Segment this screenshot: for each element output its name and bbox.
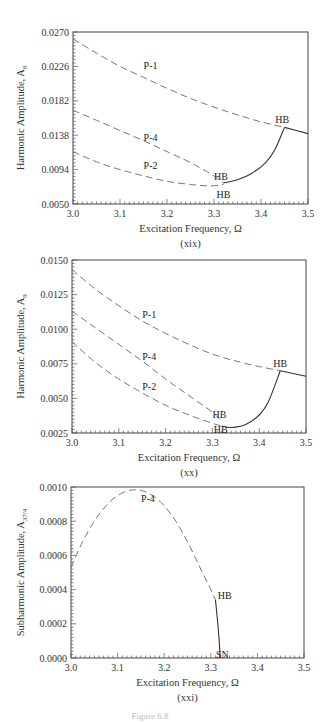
x-tick-label: 3.0 xyxy=(65,662,78,673)
subfigure-caption: (xix) xyxy=(180,238,201,250)
y-tick-label: 0.0025 xyxy=(41,428,69,439)
curve-annotation: HB xyxy=(212,409,226,420)
curve-annotation: P-4 xyxy=(141,493,155,504)
subfigure-caption: (xxi) xyxy=(177,692,198,704)
curve-annotation: P-2 xyxy=(144,160,158,171)
series-line-stable-branch xyxy=(223,127,284,182)
y-tick-label: 0.0000 xyxy=(40,653,68,664)
curve-annotation: P-2 xyxy=(142,381,156,392)
curve-annotation: P-1 xyxy=(144,60,158,71)
x-tick-label: 3.4 xyxy=(251,662,264,673)
y-tick-label: 0.0008 xyxy=(40,516,68,527)
x-tick-label: 3.3 xyxy=(208,208,221,219)
x-tick-label: 3.3 xyxy=(205,662,218,673)
series-line-p-1-stable xyxy=(280,371,306,377)
plot-frame xyxy=(73,32,308,204)
x-tick-label: 3.2 xyxy=(161,208,174,219)
curve-annotation: SN xyxy=(216,649,229,660)
x-tick-label: 3.1 xyxy=(111,662,124,673)
x-tick-label: 3.1 xyxy=(113,437,126,448)
x-axis-title: Excitation Frequency, Ω xyxy=(138,452,241,463)
plot-frame xyxy=(71,487,304,658)
curve-annotation: P-4 xyxy=(144,132,158,143)
y-tick-label: 0.0050 xyxy=(42,199,70,210)
series-line-p-4 xyxy=(71,490,216,600)
series-line-stable-branch xyxy=(222,371,281,428)
figure-canvas: 3.03.13.23.33.43.50.02700.02260.01820.01… xyxy=(0,0,328,722)
chart-1: 3.03.13.23.33.43.50.02700.02260.01820.01… xyxy=(15,27,314,251)
x-tick-label: 3.4 xyxy=(255,208,268,219)
curve-annotation: HB xyxy=(218,590,232,601)
x-tick-label: 3.0 xyxy=(67,208,80,219)
x-tick-label: 3.2 xyxy=(159,437,172,448)
chart-3: 3.03.13.23.33.43.50.00100.00080.00060.00… xyxy=(15,482,310,705)
y-tick-label: 0.0150 xyxy=(41,255,69,266)
series-line-p-4 xyxy=(73,110,223,183)
y-tick-label: 0.0226 xyxy=(42,61,70,72)
y-tick-label: 0.0006 xyxy=(40,550,68,561)
curve-annotation: HB xyxy=(214,171,228,182)
series-line-p-1-stable xyxy=(285,127,309,133)
figure-caption: Figure 6.8 xyxy=(132,711,169,721)
series-line-p-4 xyxy=(72,311,222,422)
series-line-p-1 xyxy=(73,39,285,127)
y-tick-label: 0.0075 xyxy=(41,358,69,369)
curve-annotation: HB xyxy=(216,189,230,200)
y-tick-label: 0.0050 xyxy=(41,393,69,404)
y-axis-title: Subharmonic Amplitude, A37/4 xyxy=(15,508,29,636)
y-tick-label: 0.0010 xyxy=(40,482,68,493)
series-line-p-1 xyxy=(72,270,280,371)
x-tick-label: 3.1 xyxy=(114,208,127,219)
curve-annotation: HB xyxy=(273,358,287,369)
y-axis-title: Harmonic Amplitude, A8 xyxy=(15,65,29,170)
y-tick-label: 0.0125 xyxy=(41,289,69,300)
y-tick-label: 0.0004 xyxy=(40,584,68,595)
x-tick-label: 3.4 xyxy=(253,437,266,448)
y-tick-label: 0.0002 xyxy=(40,618,68,629)
x-tick-label: 3.3 xyxy=(206,437,219,448)
x-axis-title: Excitation Frequency, Ω xyxy=(139,223,242,234)
plot-frame xyxy=(72,260,306,433)
curve-annotation: HB xyxy=(214,424,228,435)
y-axis-title: Harmonic Amplitude, A9 xyxy=(15,294,29,399)
chart-2: 3.03.13.23.33.43.50.01500.01250.01000.00… xyxy=(15,255,312,480)
y-tick-label: 0.0138 xyxy=(42,130,70,141)
x-tick-label: 3.2 xyxy=(158,662,171,673)
curve-annotation: P-4 xyxy=(142,351,156,362)
x-tick-label: 3.5 xyxy=(298,662,311,673)
y-tick-label: 0.0100 xyxy=(41,324,69,335)
x-tick-label: 3.0 xyxy=(66,437,79,448)
subfigure-caption: (xx) xyxy=(180,467,198,479)
x-tick-label: 3.5 xyxy=(302,208,315,219)
curve-annotation: HB xyxy=(275,114,289,125)
y-tick-label: 0.0270 xyxy=(42,27,70,38)
curve-annotation: P-1 xyxy=(142,309,156,320)
y-tick-label: 0.0182 xyxy=(42,95,70,106)
x-tick-label: 3.5 xyxy=(300,437,313,448)
y-tick-label: 0.0094 xyxy=(42,164,70,175)
x-axis-title: Excitation Frequency, Ω xyxy=(136,677,239,688)
